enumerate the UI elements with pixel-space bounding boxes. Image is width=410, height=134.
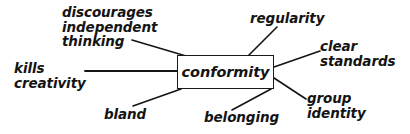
branch-label-kills-creativity: kills creativity (14, 61, 86, 90)
branch-label-belonging: belonging (204, 110, 279, 125)
central-node-conformity: conformity (177, 55, 274, 89)
branch-label-bland: bland (104, 107, 146, 122)
branch-label-group-identity: group identity (307, 91, 366, 120)
connector-belonging (232, 89, 271, 110)
connector-bland (133, 89, 181, 106)
branch-label-clear-standards: clear standards (320, 39, 395, 68)
mind-map-diagram: conformity discourages independent think… (0, 0, 410, 134)
connector-clear-standards (274, 51, 320, 67)
branch-label-discourages-independent-thinking: discourages independent thinking (62, 5, 157, 49)
branch-label-regularity: regularity (250, 11, 324, 26)
connector-regularity (248, 27, 277, 56)
central-node-label: conformity (182, 64, 270, 80)
connector-group-identity (274, 78, 306, 99)
